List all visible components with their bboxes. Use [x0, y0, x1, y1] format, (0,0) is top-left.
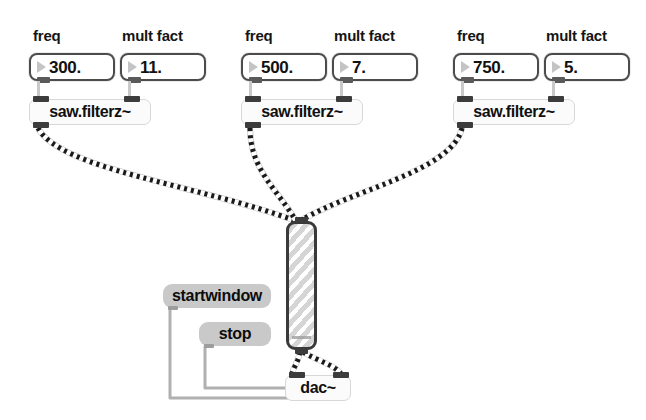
number-box-value: 750.: [473, 59, 505, 76]
message-box-startwindow[interactable]: startwindow: [163, 284, 271, 308]
object-box-saw-filterz-1[interactable]: saw.filterz~: [29, 99, 151, 125]
numbox-triangle-icon: [128, 61, 137, 73]
numbox-triangle-icon: [249, 61, 258, 73]
inlet-nub-left[interactable]: [289, 372, 305, 378]
outlet-nub[interactable]: [457, 122, 473, 128]
gain-slider-knob[interactable]: [292, 336, 311, 339]
number-box-value: 300.: [49, 59, 81, 76]
comment-mult-fact-2: mult fact: [334, 27, 395, 44]
gain-slider[interactable]: [286, 221, 317, 350]
number-box-mult-fact-3[interactable]: 5.: [544, 53, 630, 81]
numbox-triangle-icon: [340, 61, 349, 73]
saw3-to-gain[interactable]: [300, 128, 462, 221]
comment-freq-3: freq: [457, 27, 485, 44]
number-box-freq-3[interactable]: 750.: [453, 53, 539, 81]
comment-freq-2: freq: [245, 27, 273, 44]
number-box-value: 7.: [352, 59, 366, 76]
inlet-nub[interactable]: [295, 217, 308, 223]
object-box-text: dac~: [300, 379, 335, 397]
inlet-nub-right[interactable]: [548, 96, 564, 102]
stop-to-dac[interactable]: [205, 347, 288, 388]
inlet-nub-left[interactable]: [33, 96, 49, 102]
saw1-to-gain-edge: [38, 128, 296, 221]
saw2-to-gain-edge: [250, 128, 296, 221]
outlet-nub[interactable]: [245, 122, 261, 128]
numbox-triangle-icon: [552, 61, 561, 73]
saw2-to-gain[interactable]: [250, 128, 296, 221]
object-box-text: saw.filterz~: [473, 103, 554, 121]
outlet-nub[interactable]: [204, 344, 214, 348]
message-box-stop[interactable]: stop: [199, 322, 271, 346]
inlet-nub-right[interactable]: [124, 96, 140, 102]
numbox-triangle-icon: [37, 61, 46, 73]
saw3-to-gain-core: [300, 128, 462, 221]
comment-mult-fact-3: mult fact: [546, 27, 607, 44]
message-box-text: startwindow: [172, 287, 262, 305]
number-box-value: 5.: [564, 59, 578, 76]
object-box-text: saw.filterz~: [49, 103, 130, 121]
object-box-saw-filterz-2[interactable]: saw.filterz~: [241, 99, 363, 125]
saw3-to-gain-edge: [300, 128, 462, 221]
comment-freq-1: freq: [33, 27, 61, 44]
max-patcher-canvas: freq mult fact freq mult fact freq mult …: [0, 0, 646, 420]
inlet-nub-left[interactable]: [245, 96, 261, 102]
message-box-text: stop: [219, 325, 252, 343]
object-box-dac[interactable]: dac~: [285, 375, 351, 401]
saw1-to-gain[interactable]: [38, 128, 296, 221]
number-box-freq-1[interactable]: 300.: [29, 53, 115, 81]
outlet-nub[interactable]: [33, 122, 49, 128]
outlet-nub[interactable]: [295, 348, 308, 354]
object-box-saw-filterz-3[interactable]: saw.filterz~: [453, 99, 575, 125]
comment-mult-fact-1: mult fact: [122, 27, 183, 44]
number-box-mult-fact-1[interactable]: 11.: [120, 53, 206, 81]
object-box-text: saw.filterz~: [261, 103, 342, 121]
number-box-mult-fact-2[interactable]: 7.: [332, 53, 418, 81]
inlet-nub-right[interactable]: [336, 96, 352, 102]
saw1-to-gain-core: [38, 128, 296, 221]
number-box-value: 11.: [140, 59, 162, 76]
saw2-to-gain-core: [250, 128, 296, 221]
number-box-value: 500.: [261, 59, 293, 76]
inlet-nub-left[interactable]: [457, 96, 473, 102]
inlet-nub-right[interactable]: [333, 372, 349, 378]
outlet-nub[interactable]: [168, 306, 178, 310]
numbox-triangle-icon: [461, 61, 470, 73]
number-box-freq-2[interactable]: 500.: [241, 53, 327, 81]
